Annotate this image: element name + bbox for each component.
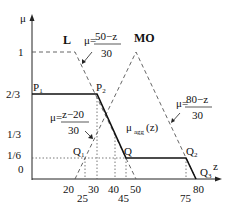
point-P1-label: P1 bbox=[33, 81, 43, 95]
y-axis-label: μ bbox=[20, 12, 26, 24]
svg-text:80−z: 80−z bbox=[186, 93, 208, 105]
x-tick-50: 50 bbox=[130, 183, 142, 195]
equation-MO-falling: μ= 80−z 30 bbox=[171, 93, 212, 123]
point-Q1-label: Q1 bbox=[73, 145, 85, 159]
point-Q2-label: Q2 bbox=[186, 145, 198, 159]
set-L-label: L bbox=[63, 33, 71, 47]
y-tick-1-3: 1/3 bbox=[7, 128, 22, 140]
x-tick-labels: z 20 30 40 50 80 25 45 75 bbox=[63, 160, 218, 204]
x-tick-25: 25 bbox=[77, 192, 89, 204]
guide-lines bbox=[32, 94, 186, 179]
fuzzy-membership-diagram: μ 1 2/3 1/3 1/6 0 z 20 30 40 50 80 25 45… bbox=[0, 0, 232, 210]
y-tick-1-6: 1/6 bbox=[7, 149, 22, 161]
point-P2-label: P2 bbox=[96, 81, 106, 95]
x-tick-30: 30 bbox=[88, 183, 100, 195]
x-tick-75: 75 bbox=[180, 192, 192, 204]
svg-text:z−20: z−20 bbox=[62, 108, 85, 120]
y-tick-2-3: 2/3 bbox=[6, 88, 21, 100]
x-axis-label: z bbox=[213, 160, 218, 172]
y-axis-arrow-icon bbox=[30, 14, 35, 21]
svg-text:30: 30 bbox=[101, 47, 113, 59]
svg-text:30: 30 bbox=[192, 109, 204, 121]
equation-MO-rising: μ= z−20 30 bbox=[50, 108, 93, 139]
aggregate-membership-curve bbox=[32, 94, 196, 179]
x-tick-20: 20 bbox=[63, 183, 75, 195]
diagram-svg: μ 1 2/3 1/3 1/6 0 z 20 30 40 50 80 25 45… bbox=[0, 0, 232, 210]
equation-L-falling: μ= 50−z 30 bbox=[82, 30, 121, 64]
y-tick-labels: μ 1 2/3 1/3 1/6 0 bbox=[6, 12, 26, 175]
point-Q-label: Q bbox=[124, 145, 132, 157]
svg-text:50−z: 50−z bbox=[95, 30, 117, 42]
x-tick-80: 80 bbox=[193, 183, 205, 195]
y-tick-0: 0 bbox=[18, 163, 24, 175]
point-Q3-label: Q3 bbox=[200, 166, 212, 180]
set-MO-label: MO bbox=[134, 31, 155, 45]
aggregate-label: μagg(z) bbox=[126, 121, 159, 136]
x-tick-45: 45 bbox=[118, 192, 130, 204]
svg-text:30: 30 bbox=[68, 124, 80, 136]
svg-text:μ=: μ= bbox=[50, 111, 62, 123]
y-tick-1: 1 bbox=[18, 46, 24, 58]
x-axis-arrow-icon bbox=[215, 177, 222, 182]
